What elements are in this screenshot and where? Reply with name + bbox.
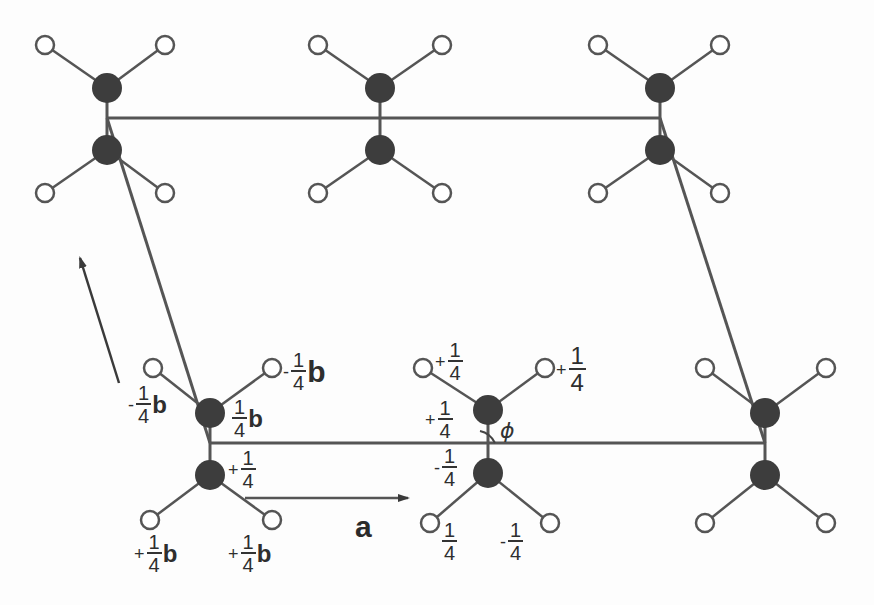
label-bl-h-upper-left: -14b — [128, 383, 167, 426]
carbon-atom — [750, 460, 780, 490]
carbon-atom — [195, 398, 225, 428]
hydrogen-atom — [433, 184, 451, 202]
b-axis-arrow — [80, 258, 119, 383]
hydrogen-atom — [433, 36, 451, 54]
label-bm-h-upper-right: +14 — [556, 344, 586, 395]
label-bl-c-lower: +14 — [228, 448, 256, 491]
hydrogen-atom — [589, 36, 607, 54]
label-bl-h-lower-right: +14b — [228, 532, 271, 575]
diagram-canvas — [0, 0, 874, 605]
label-bm-h-lower-right: -14 — [500, 520, 523, 563]
hydrogen-atom — [309, 184, 327, 202]
hydrogen-atom — [36, 184, 54, 202]
molecule-bottom-right — [696, 359, 835, 532]
hydrogen-atom — [263, 359, 281, 377]
label-bl-h-lower-left: +14b — [134, 532, 177, 575]
carbon-atom — [365, 135, 395, 165]
hydrogen-atom — [421, 514, 439, 532]
label-bm-h-lower-left: 14 — [440, 520, 457, 563]
carbon-atom — [750, 398, 780, 428]
unit-cell-outline — [107, 118, 765, 443]
a-axis-label: a — [355, 510, 372, 544]
label-bm-c-lower: -14 — [434, 446, 457, 489]
label-bl-h-upper-right: -14b — [283, 350, 325, 393]
hydrogen-atom — [141, 511, 159, 529]
hydrogen-atom — [696, 514, 714, 532]
hydrogen-atom — [156, 184, 174, 202]
hydrogen-atom — [144, 359, 162, 377]
hydrogen-atom — [711, 184, 729, 202]
hydrogen-atom — [711, 36, 729, 54]
hydrogen-atom — [589, 184, 607, 202]
label-bm-c-upper: +14 — [425, 398, 453, 441]
carbon-atom — [92, 73, 122, 103]
carbon-atom — [645, 73, 675, 103]
hydrogen-atom — [696, 359, 714, 377]
hydrogen-atom — [36, 36, 54, 54]
carbon-atom — [92, 135, 122, 165]
hydrogen-atom — [263, 511, 281, 529]
carbon-atom — [645, 135, 675, 165]
hydrogen-atom — [156, 36, 174, 54]
angle-phi-label: ϕ — [500, 418, 515, 443]
carbon-atom — [195, 460, 225, 490]
hydrogen-atom — [817, 359, 835, 377]
crystal-structure-diagram: -14b -14b 14b +14 +14b +14b +14 +14 +14 … — [0, 0, 874, 605]
hydrogen-atom — [536, 359, 554, 377]
unit-cell-edge — [660, 118, 765, 443]
hydrogen-atom — [414, 359, 432, 377]
carbon-atom — [365, 73, 395, 103]
carbon-atom — [473, 395, 503, 425]
label-bl-c-upper: 14b — [230, 397, 263, 440]
carbon-atom — [473, 458, 503, 488]
label-bm-h-upper-left: +14 — [435, 340, 463, 383]
hydrogen-atom — [309, 36, 327, 54]
hydrogen-atom — [817, 514, 835, 532]
hydrogen-atom — [541, 514, 559, 532]
